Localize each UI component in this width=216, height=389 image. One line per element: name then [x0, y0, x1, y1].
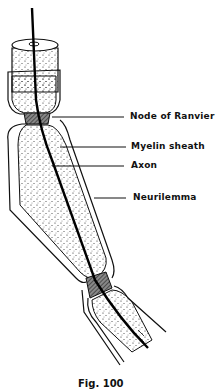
lower-segment	[82, 286, 166, 365]
label-node-of-ranvier: Node of Ranvier	[130, 111, 215, 121]
middle-segment	[8, 120, 114, 283]
node-of-ranvier-upper	[24, 113, 50, 124]
label-myelin-sheath: Myelin sheath	[131, 141, 205, 151]
label-neurilemma: Neurilemma	[133, 192, 197, 202]
label-axon: Axon	[131, 160, 157, 170]
figure-caption: Fig. 100	[78, 378, 124, 389]
